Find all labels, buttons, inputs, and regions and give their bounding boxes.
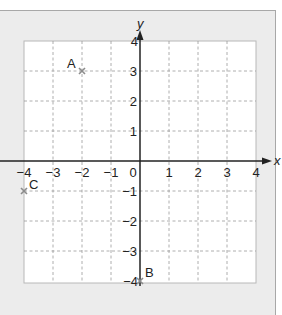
x-tick-label: 0 [129, 165, 136, 180]
y-tick-label: 2 [130, 94, 137, 109]
y-tick-label: −1 [122, 184, 137, 199]
x-tick-label: −2 [75, 165, 90, 180]
x-tick-label: 4 [252, 165, 259, 180]
x-axis-arrow-icon [262, 158, 272, 165]
y-tick-label: 1 [130, 124, 137, 139]
x-axis-label: x [273, 153, 281, 168]
y-tick-label: −3 [122, 244, 137, 259]
point-b-label: B [145, 265, 154, 280]
x-tick-label: 1 [165, 165, 172, 180]
coordinate-grid: x y −4 −3 −2 −1 0 1 2 3 4 4 3 2 1 −1 −2 … [0, 0, 282, 315]
x-tick-label: −1 [104, 165, 119, 180]
x-tick-label: −3 [46, 165, 61, 180]
y-tick-label: −4 [123, 274, 138, 289]
x-tick-label: 2 [194, 165, 201, 180]
point-a-label: A [67, 56, 76, 71]
point-c-label: C [29, 177, 38, 192]
y-tick-label: 4 [131, 34, 138, 49]
y-tick-label: −2 [122, 214, 137, 229]
y-tick-label: 3 [130, 64, 137, 79]
x-tick-label: 3 [223, 165, 230, 180]
y-axis-label: y [136, 16, 145, 31]
